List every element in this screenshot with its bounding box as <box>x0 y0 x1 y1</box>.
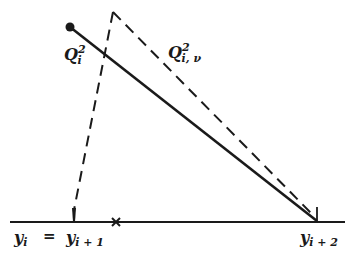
tick-left <box>72 208 76 222</box>
label-q-i-nu-squared: Q2i, ν <box>168 41 201 65</box>
diagram-canvas: Q2i Q2i, ν yi = yi + 1 yi + 2 <box>0 0 359 256</box>
label-y-i-plus-1: yi + 1 <box>65 228 104 249</box>
label-equals: = <box>43 227 56 245</box>
start-point-dot-icon <box>66 23 75 32</box>
dashed-line-left <box>74 12 113 210</box>
dashed-line-right <box>113 12 312 214</box>
label-y-i: yi <box>13 228 27 249</box>
label-y-i-plus-2: yi + 2 <box>299 228 338 249</box>
label-q-i-squared: Q2i <box>64 43 86 67</box>
